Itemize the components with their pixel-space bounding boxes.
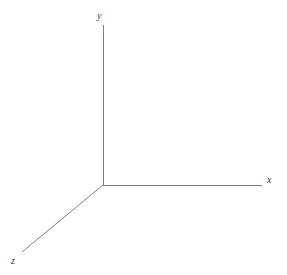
z-axis-label: z bbox=[11, 256, 15, 266]
axes-drawing bbox=[0, 0, 287, 275]
x-axis-label: x bbox=[267, 175, 271, 185]
coordinate-axes-figure: y x z bbox=[0, 0, 287, 275]
y-axis-label: y bbox=[97, 11, 101, 21]
z-axis-line bbox=[22, 185, 103, 252]
